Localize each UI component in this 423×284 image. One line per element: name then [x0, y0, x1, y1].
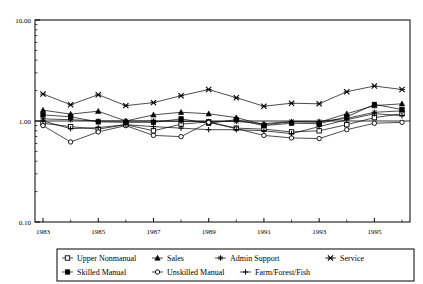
chart-background	[0, 0, 423, 284]
legend-label: Admin Support	[230, 254, 280, 263]
x-tick-label: 1989	[202, 228, 217, 236]
data-point	[262, 133, 266, 137]
legend-marker-open-circle-icon	[155, 270, 159, 274]
data-point	[345, 128, 349, 132]
data-point	[372, 102, 376, 106]
legend-marker-plus-star-icon	[218, 255, 223, 260]
x-tick-label: 1987	[146, 228, 161, 236]
data-point	[206, 120, 210, 124]
data-point	[289, 136, 293, 140]
data-point	[289, 121, 293, 125]
chart-container: 10.001.000.10 19831985198719891991199319…	[0, 0, 423, 284]
x-tick-label: 1991	[257, 228, 272, 236]
y-tick-label: 10.00	[15, 17, 31, 25]
y-tick-label: 1.00	[19, 118, 32, 126]
x-tick-label: 1983	[36, 228, 51, 236]
data-point	[41, 113, 45, 117]
data-point	[96, 130, 100, 134]
legend-label: Skilled Manual	[77, 268, 127, 277]
data-point	[68, 140, 72, 144]
data-point	[179, 117, 183, 121]
data-point	[179, 134, 183, 138]
y-tick-label: 0.10	[19, 219, 32, 227]
legend-box: Upper NonmanualSalesAdmin SupportService…	[57, 249, 414, 281]
data-point	[345, 122, 349, 126]
data-point	[68, 115, 72, 119]
legend-label: Unskilled Manual	[167, 268, 225, 277]
x-tick-label: 1985	[91, 228, 106, 236]
legend-label: Service	[340, 254, 364, 263]
legend-label: Upper Nonmanual	[77, 254, 137, 263]
occupation-index-line-chart: 10.001.000.10 19831985198719891991199319…	[0, 0, 423, 284]
legend-label: Sales	[167, 254, 184, 263]
data-point	[372, 121, 376, 125]
x-tick-label: 1993	[312, 228, 327, 236]
data-point	[317, 136, 321, 140]
data-point	[151, 120, 155, 124]
legend-marker-open-square-icon	[65, 256, 69, 260]
data-point	[234, 118, 238, 122]
data-point	[400, 107, 404, 111]
data-point	[96, 120, 100, 124]
legend-label: Farm/Forest/Fish	[255, 268, 310, 277]
data-point	[262, 123, 266, 127]
data-point	[151, 133, 155, 137]
legend-marker-filled-square-icon	[65, 270, 69, 274]
data-point	[41, 123, 45, 127]
data-point	[400, 120, 404, 124]
x-tick-label: 1995	[367, 228, 382, 236]
